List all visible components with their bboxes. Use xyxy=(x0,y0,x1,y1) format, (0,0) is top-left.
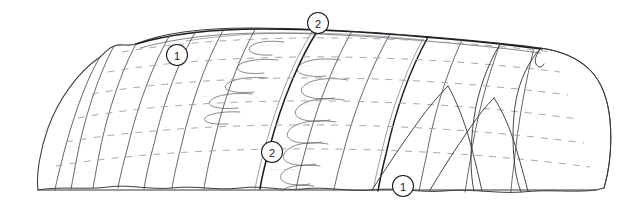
block-diagram-svg: ~ ~~ ~~~ ~ ~~~~~ ~ ~~~ ~ ~~~~~~ ~~~ ~ ~~… xyxy=(0,0,640,213)
label-1-lower-right[interactable]: 1 xyxy=(393,176,414,197)
annotation-text: ~~ ~~~ ~~~ xyxy=(278,188,298,192)
annotation-text: ~~~ ~~ ~~ ~~~ xyxy=(270,168,295,172)
label-2-center[interactable]: 2 xyxy=(262,142,283,163)
label-number: 2 xyxy=(315,18,321,30)
label-1-upper-left[interactable]: 1 xyxy=(167,45,188,66)
figure-root: ~ ~~ ~~~ ~ ~~~~~ ~ ~~~ ~ ~~~~~~ ~~~ ~ ~~… xyxy=(0,0,640,213)
label-2-top[interactable]: 2 xyxy=(308,13,329,34)
dome-body-outline xyxy=(37,28,610,190)
label-number: 1 xyxy=(174,50,180,62)
label-number: 2 xyxy=(269,147,275,159)
dome-outline-group xyxy=(37,28,610,192)
label-number: 1 xyxy=(400,181,406,193)
annotation-text: ~~~ ~ ~~~ ~~ xyxy=(202,94,225,99)
